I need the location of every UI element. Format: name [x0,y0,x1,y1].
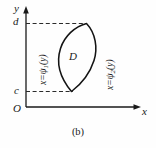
region-d-boundary [59,24,96,92]
left-boundary-label: x=ψ1(y) [39,54,50,85]
left-boundary-label-suffix: (y) [38,54,48,65]
left-boundary-label-text: x=ψ [38,68,48,85]
origin-label: O [13,103,21,114]
figure-caption: (b) [0,126,156,137]
y-tick-label-c: c [14,85,19,96]
y-axis-arrowhead [23,6,29,14]
figure-container: y x d c O D x=ψ1(y) x=ψ2(y) (b) [0,0,156,148]
x-axis-arrowhead [134,104,142,110]
right-boundary-label: x=ψ2(y) [106,59,117,90]
right-boundary-label-suffix: (y) [105,59,115,70]
right-boundary-label-text: x=ψ [105,73,115,90]
y-axis-label: y [14,3,19,14]
right-boundary-label-subscript: 2 [109,70,117,74]
left-boundary-label-subscript: 1 [42,65,50,69]
y-tick-label-d: d [13,16,19,27]
x-axis-label: x [142,106,147,117]
region-label-d: D [69,51,77,62]
